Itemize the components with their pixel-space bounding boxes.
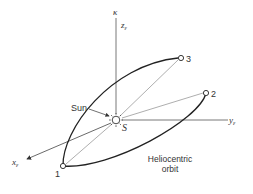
sun-point-label: S [122,122,127,133]
point-2-marker [203,90,208,95]
radius-to-point-3 [120,60,178,116]
point-3-marker [178,55,183,60]
point-1-label: 1 [55,169,60,179]
orbit-caption-line2: orbit [162,164,179,174]
point-3-label: 3 [186,54,191,64]
point-2-label: 2 [211,89,216,99]
point-1-marker [60,163,65,168]
kappa-label: κ [113,7,118,17]
heliocentric-orbit-diagram: κ zε yε xε Sun S 3 2 1 Heliocentric orbi… [0,0,253,194]
x-axis [27,123,111,159]
sun-icon [109,113,123,127]
orbit-right-arc [180,58,206,93]
sun-pointer-arrow [89,109,109,116]
sun-label: Sun [71,103,87,113]
x-axis-label: xε [11,157,19,168]
y-axis-label: yε [228,115,236,126]
z-axis-label: zε [120,20,128,31]
orbit-caption-line1: Heliocentric [148,154,193,164]
